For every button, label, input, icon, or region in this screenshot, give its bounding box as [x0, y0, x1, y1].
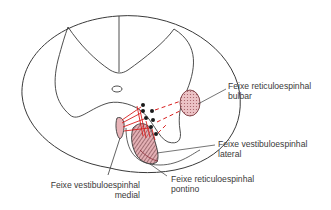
- label-line: bulbar: [228, 91, 311, 101]
- label-line: Feixe reticuloespinhal: [228, 81, 311, 91]
- bulbar-dashed-fibers: [155, 101, 182, 133]
- label-line: medial: [40, 190, 140, 200]
- label-line: pontino: [171, 184, 254, 194]
- label-line: Feixe vestibuloespinhal: [218, 139, 307, 149]
- reticulo-bulbar-tract: [180, 90, 200, 116]
- label-line: lateral: [218, 149, 307, 159]
- spinal-cord-diagram: [0, 0, 331, 210]
- spinal-cord-outline: [22, 16, 240, 173]
- vestibulo-medial-tract: [116, 117, 124, 138]
- label-line: Feixe reticuloespinhal: [171, 174, 254, 184]
- label-reticulo-pontino: Feixe reticuloespinhal pontino: [171, 174, 254, 194]
- label-reticulo-bulbar: Feixe reticuloespinhal bulbar: [228, 81, 311, 101]
- label-vestibulo-lateral: Feixe vestibuloespinhal lateral: [218, 139, 307, 159]
- label-vestibulo-medial: Feixe vestibuloespinhal medial: [40, 180, 140, 200]
- central-canal: [112, 86, 122, 92]
- label-line: Feixe vestibuloespinhal: [40, 180, 140, 190]
